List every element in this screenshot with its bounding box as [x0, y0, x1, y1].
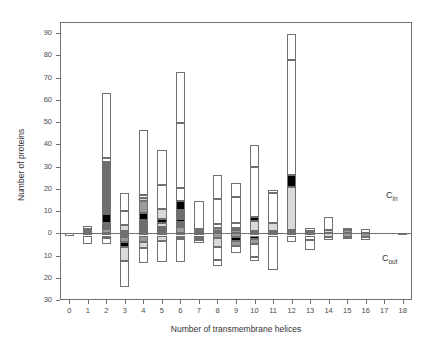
bar-segment [120, 261, 129, 287]
y-tick-30 [56, 300, 60, 301]
bar-segment [250, 167, 259, 217]
bar-segment [120, 193, 129, 211]
bar-segment [157, 209, 166, 219]
bar-segment [305, 228, 314, 231]
bar-segment [213, 260, 222, 266]
bar-segment [102, 93, 111, 157]
bar-segment [194, 229, 203, 231]
bar-segment [324, 237, 333, 240]
y-tick-10 [56, 256, 60, 257]
bar-segment [213, 228, 222, 231]
bar-segment [83, 226, 92, 229]
y-tick-label: 10 [30, 252, 52, 260]
bar-segment [213, 224, 222, 227]
bar-segment [157, 150, 166, 186]
bar-segment [213, 247, 222, 260]
bar-segment [287, 175, 296, 186]
bar-segment [268, 190, 277, 193]
x-tick-7 [199, 300, 200, 304]
y-tick-label: 80 [30, 51, 52, 59]
bar-segment [102, 214, 111, 223]
bar-segment [157, 185, 166, 208]
x-tick-label: 10 [245, 307, 265, 315]
y-tick-label: 30 [30, 296, 52, 304]
x-axis-title: Number of transmembrane helices [60, 324, 412, 334]
bar-segment [83, 229, 92, 231]
bar-segment [120, 247, 129, 261]
bar-segment [231, 223, 240, 227]
bar-segment [250, 257, 259, 261]
bar-segment [231, 183, 240, 196]
bar-segment [176, 201, 185, 210]
x-tick-3 [125, 300, 126, 304]
y-tick-label: 0 [30, 229, 52, 237]
y-tick-20 [56, 278, 60, 279]
bar-segment [176, 222, 185, 226]
x-tick-label: 7 [189, 307, 209, 315]
bar-segment [305, 240, 314, 250]
bar-segment [213, 199, 222, 225]
x-tick-11 [273, 300, 274, 304]
x-tick-10 [255, 300, 256, 304]
y-tick-30 [56, 167, 60, 168]
x-tick-0 [69, 300, 70, 304]
y-tick-60 [56, 100, 60, 101]
x-tick-label: 1 [78, 307, 98, 315]
x-tick-6 [180, 300, 181, 304]
x-tick-label: 2 [96, 307, 116, 315]
bar-segment [176, 72, 185, 123]
chart-figure: 9080706050403020100102030 01234567891011… [0, 0, 437, 342]
x-tick-label: 14 [319, 307, 339, 315]
x-tick-label: 8 [207, 307, 227, 315]
y-tick-label: 90 [30, 29, 52, 37]
y-tick-label: 30 [30, 163, 52, 171]
bar-segment [139, 130, 148, 196]
bar-segment [213, 175, 222, 198]
bar-segment [157, 223, 166, 226]
y-tick-label: 50 [30, 118, 52, 126]
bar-segment [268, 236, 277, 270]
x-tick-label: 11 [263, 307, 283, 315]
y-tick-70 [56, 78, 60, 79]
x-tick-label: 9 [226, 307, 246, 315]
bar-segment [361, 237, 370, 240]
bar-segment [343, 237, 352, 239]
y-tick-80 [56, 55, 60, 56]
bar-segment [268, 223, 277, 231]
x-tick-9 [236, 300, 237, 304]
y-tick-label: 60 [30, 96, 52, 104]
y-tick-50 [56, 122, 60, 123]
y-tick-label: 70 [30, 74, 52, 82]
c-in-label: Cin [386, 190, 398, 202]
x-tick-label: 0 [59, 307, 79, 315]
y-tick-label: 40 [30, 140, 52, 148]
bar-segment [176, 239, 185, 262]
bar-segment [250, 244, 259, 256]
bar-segment [102, 158, 111, 162]
x-tick-12 [292, 300, 293, 304]
bar-segment [268, 193, 277, 223]
bar-segment [102, 162, 111, 214]
x-tick-label: 17 [374, 307, 394, 315]
bar-segment [194, 201, 203, 229]
x-tick-label: 5 [152, 307, 172, 315]
y-tick-label: 20 [30, 274, 52, 282]
bar-segment [102, 238, 111, 244]
c-out-label: Cout [382, 253, 398, 265]
bar-segment [139, 236, 148, 243]
bar-segment [83, 236, 92, 245]
bar-segment [250, 145, 259, 166]
x-tick-17 [384, 300, 385, 304]
bar-segment [231, 197, 240, 224]
bar-segment [324, 217, 333, 230]
y-tick-20 [56, 189, 60, 190]
bar-segment [176, 210, 185, 219]
bar-segment [176, 123, 185, 187]
y-tick-label: 20 [30, 185, 52, 193]
x-tick-label: 3 [115, 307, 135, 315]
x-tick-2 [106, 300, 107, 304]
x-tick-1 [88, 300, 89, 304]
plot-area [60, 22, 412, 300]
x-tick-label: 6 [170, 307, 190, 315]
x-tick-label: 15 [337, 307, 357, 315]
